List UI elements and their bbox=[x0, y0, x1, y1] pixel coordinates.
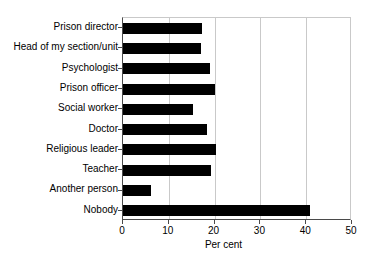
x-tick-label: 0 bbox=[107, 225, 137, 236]
bar bbox=[123, 165, 211, 176]
y-tick bbox=[118, 88, 122, 89]
category-label: Head of my section/unit bbox=[14, 37, 119, 57]
category-label: Teacher bbox=[82, 159, 118, 179]
y-tick bbox=[118, 129, 122, 130]
x-tick-label: 50 bbox=[336, 225, 365, 236]
bar bbox=[123, 43, 201, 54]
y-tick bbox=[118, 169, 122, 170]
bar bbox=[123, 23, 202, 34]
x-tick-10 bbox=[168, 220, 169, 224]
x-tick-20 bbox=[214, 220, 215, 224]
y-tick bbox=[118, 47, 122, 48]
plot-area bbox=[122, 17, 351, 220]
bar-row bbox=[123, 38, 350, 58]
x-tick-40 bbox=[305, 220, 306, 224]
y-tick bbox=[118, 210, 122, 211]
bar-chart: Prison directorHead of my section/unitPs… bbox=[0, 0, 365, 258]
category-label: Psychologist bbox=[62, 58, 118, 78]
category-label: Nobody bbox=[84, 200, 118, 220]
bar bbox=[123, 104, 193, 115]
bar bbox=[123, 124, 207, 135]
bar-row bbox=[123, 18, 350, 38]
bar-row bbox=[123, 180, 350, 200]
category-label: Social worker bbox=[58, 98, 118, 118]
x-axis-title-text: Per cent bbox=[205, 239, 242, 250]
bar bbox=[123, 144, 216, 155]
category-label: Another person bbox=[50, 179, 118, 199]
bar bbox=[123, 185, 151, 196]
x-tick-label: 30 bbox=[244, 225, 274, 236]
category-label: Prison director bbox=[54, 17, 118, 37]
bar-row bbox=[123, 99, 350, 119]
y-tick bbox=[118, 149, 122, 150]
bar bbox=[123, 205, 310, 216]
x-tick-50 bbox=[351, 220, 352, 224]
category-axis-labels: Prison directorHead of my section/unitPs… bbox=[0, 17, 118, 220]
bar-row bbox=[123, 59, 350, 79]
x-axis-title: Per cent bbox=[0, 239, 365, 250]
y-tick bbox=[118, 190, 122, 191]
x-tick-0 bbox=[122, 220, 123, 224]
bar-row bbox=[123, 79, 350, 99]
y-tick bbox=[118, 108, 122, 109]
bar bbox=[123, 84, 215, 95]
bar bbox=[123, 63, 210, 74]
x-tick-30 bbox=[259, 220, 260, 224]
bar-series bbox=[123, 18, 350, 219]
y-tick bbox=[118, 27, 122, 28]
category-label: Prison officer bbox=[60, 78, 118, 98]
bar-row bbox=[123, 201, 350, 221]
category-label: Doctor bbox=[89, 119, 118, 139]
bar-row bbox=[123, 140, 350, 160]
bar-row bbox=[123, 120, 350, 140]
x-tick-label: 40 bbox=[290, 225, 320, 236]
x-tick-label: 10 bbox=[153, 225, 183, 236]
y-tick bbox=[118, 68, 122, 69]
category-label: Religious leader bbox=[46, 139, 118, 159]
x-tick-label: 20 bbox=[199, 225, 229, 236]
bar-row bbox=[123, 160, 350, 180]
